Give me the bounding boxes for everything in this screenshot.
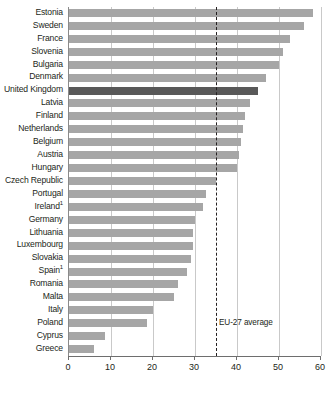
bar-row [69,149,321,161]
bar [69,203,203,211]
category-label: Belgium [33,135,63,147]
x-axis-tick [110,356,111,360]
bar [69,22,304,30]
bar-row [69,188,321,200]
category-label: Luxembourg [17,238,63,250]
category-label: France [37,32,63,44]
category-label: Romania [30,277,63,289]
x-axis-tick-label: 30 [189,362,199,372]
x-axis-tick [236,356,237,360]
eu-27-average-label: EU-27 average [219,318,273,327]
bar-row [69,343,321,355]
bar-row [69,201,321,213]
bar [69,177,216,185]
bar [69,35,290,43]
x-axis-tick-label: 20 [147,362,157,372]
category-label: Netherlands [18,122,63,134]
category-label: Portugal [32,187,63,199]
bar [69,87,258,95]
bar-row [69,59,321,71]
bar [69,74,266,82]
category-label: Hungary [32,161,63,173]
x-axis-tick [68,356,69,360]
bar-row [69,291,321,303]
bar-row [69,227,321,239]
category-label: Ireland1 [35,200,63,212]
bar [69,332,105,340]
bar [69,125,243,133]
category-label: Austria [37,148,63,160]
x-axis-tick [278,356,279,360]
bar-row [69,240,321,252]
bar-chart: EstoniaSwedenFranceSloveniaBulgariaDenma… [0,0,331,399]
bar [69,319,147,327]
bar-row [69,253,321,265]
eu-27-average-line [216,7,217,356]
category-label: Finland [36,109,63,121]
category-label: Malta [43,290,63,302]
category-label: Latvia [41,96,63,108]
bar-row [69,97,321,109]
x-axis-tick-label: 0 [65,362,70,372]
bar [69,9,313,17]
category-label: Poland [37,316,63,328]
bar-row [69,214,321,226]
bar-row [69,33,321,45]
category-label: Czech Republic [5,174,63,186]
bar [69,293,174,301]
category-label: Estonia [35,6,63,18]
bar-row [69,72,321,84]
bar-row [69,136,321,148]
x-axis-tick-label: 60 [315,362,325,372]
category-label: Bulgaria [33,58,63,70]
category-label: Spain1 [39,264,63,276]
footnote-marker: 1 [60,200,63,206]
category-label: Slovenia [31,45,63,57]
category-label: United Kingdom [4,83,63,95]
bar [69,99,250,107]
x-axis-tick-label: 10 [105,362,115,372]
category-label: Greece [36,342,63,354]
bar-row [69,317,321,329]
bar [69,190,206,198]
bar [69,306,153,314]
x-axis-tick-label: 50 [273,362,283,372]
bar-row [69,162,321,174]
bar [69,48,283,56]
bar [69,112,245,120]
bar [69,280,178,288]
bar-row [69,330,321,342]
x-axis-tick-label: 40 [231,362,241,372]
bar-row [69,266,321,278]
bar [69,255,191,263]
bar-row [69,123,321,135]
category-label: Slovakia [32,251,63,263]
category-label: Sweden [33,19,63,31]
category-label: Denmark [29,70,63,82]
bar [69,164,237,172]
bar [69,61,279,69]
x-axis-tick [152,356,153,360]
plot-area [68,7,322,356]
category-label: Italy [48,303,63,315]
footnote-marker: 1 [60,264,63,270]
bar [69,229,193,237]
category-label: Germany [29,213,63,225]
bar-row [69,46,321,58]
x-axis-tick [320,356,321,360]
bar-row [69,175,321,187]
bar [69,216,195,224]
bar [69,151,239,159]
bar [69,268,187,276]
category-label: Lithuania [29,226,63,238]
bar-row [69,7,321,19]
bar-row [69,85,321,97]
bar-row [69,110,321,122]
category-label: Cyprus [37,329,63,341]
bar-row [69,20,321,32]
bar-row [69,278,321,290]
bar-row [69,304,321,316]
x-axis-tick [194,356,195,360]
bar [69,242,193,250]
bar [69,345,94,353]
